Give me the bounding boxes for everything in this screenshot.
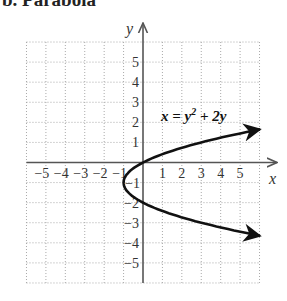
x-tick-label: 5 <box>237 166 244 181</box>
y-axis-label: y <box>124 20 134 38</box>
x-tick-label: 1 <box>159 166 166 181</box>
y-tick-label: −5 <box>124 256 139 271</box>
y-tick-label: 4 <box>132 75 139 90</box>
y-tick-label: 2 <box>132 115 139 130</box>
y-tick-label: 3 <box>132 95 139 110</box>
x-tick-label: 3 <box>198 166 205 181</box>
x-tick-label: −5 <box>34 166 49 181</box>
y-tick-label: −3 <box>124 216 139 231</box>
equation-label: x = y2 + 2y <box>160 106 227 124</box>
x-tick-label: −3 <box>73 166 88 181</box>
axes <box>26 23 277 283</box>
x-tick-label: −2 <box>93 166 108 181</box>
y-tick-label: −1 <box>125 176 140 191</box>
parabola-chart: −5−4−3−2−11234554321−1−2−3−4−5 y x x = y… <box>0 0 287 301</box>
y-tick-label: 5 <box>132 55 139 70</box>
x-tick-label: 2 <box>178 166 185 181</box>
x-tick-label: 4 <box>217 166 224 181</box>
x-axis-label: x <box>268 170 276 187</box>
equation-lhs: x = y <box>160 108 192 124</box>
y-tick-label: −4 <box>124 236 139 251</box>
x-tick-label: −4 <box>54 166 69 181</box>
equation-rhs: + 2y <box>196 108 227 124</box>
y-tick-label: 1 <box>132 135 139 150</box>
